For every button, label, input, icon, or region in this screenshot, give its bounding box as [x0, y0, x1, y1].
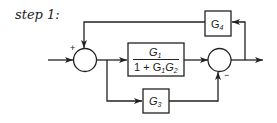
step-label: step 1: [15, 7, 60, 22]
sum2-minus-sign: − [224, 70, 229, 80]
main-denominator: 1 + G1G2 [134, 61, 178, 74]
sum1-plus-sign: + [70, 43, 75, 53]
block-diagram: step 1: [0, 0, 277, 123]
g4-label: G4 [211, 18, 224, 31]
g4-to-sum1-arrow [84, 22, 205, 48]
g3-label: G3 [149, 95, 162, 108]
main-numerator: G1 [149, 46, 162, 59]
summing-junction-1 [74, 49, 97, 72]
feedback-to-g4-arrow [232, 22, 245, 60]
summing-junction-2 [208, 49, 231, 72]
